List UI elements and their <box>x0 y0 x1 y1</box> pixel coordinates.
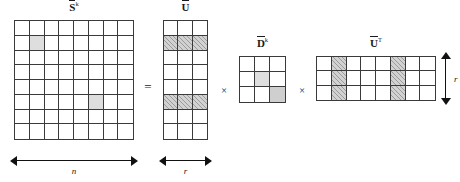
matrix-cell <box>104 124 119 139</box>
dimension-label-n: n <box>10 166 138 176</box>
matrix-cell <box>89 80 104 95</box>
matrix-cell <box>59 110 74 125</box>
matrix-cell <box>178 36 192 51</box>
matrix-cell <box>104 95 119 110</box>
matrix-s: Sk <box>14 2 134 152</box>
matrix-cell <box>332 86 347 100</box>
matrix-cell <box>89 95 104 110</box>
matrix-u-label: U <box>163 2 208 13</box>
matrix-cell <box>164 95 178 110</box>
matrix-ut-label-sup: T <box>378 36 382 43</box>
matrix-cell <box>332 71 347 85</box>
matrix-cell <box>45 95 60 110</box>
matrix-cell <box>164 80 178 95</box>
operator-equals: = <box>141 80 155 93</box>
matrix-cell <box>317 71 332 85</box>
matrix-ut-label: UT <box>316 38 436 49</box>
matrix-cell <box>376 57 391 71</box>
matrix-cell <box>361 86 376 100</box>
dimension-arrow-n: n <box>10 155 138 167</box>
matrix-cell <box>193 110 207 125</box>
matrix-cell <box>420 57 435 71</box>
matrix-cell <box>118 95 133 110</box>
matrix-cell <box>74 80 89 95</box>
matrix-cell <box>178 95 192 110</box>
matrix-d-label-base: D <box>257 37 265 49</box>
matrix-cell <box>30 80 45 95</box>
matrix-cell <box>193 124 207 139</box>
matrix-cell <box>406 57 421 71</box>
matrix-cell <box>164 21 178 36</box>
matrix-cell <box>332 57 347 71</box>
matrix-ut: UT <box>316 38 436 118</box>
matrix-cell <box>406 86 421 100</box>
arrow-head-right-icon <box>131 156 138 166</box>
matrix-cell <box>178 110 192 125</box>
matrix-cell <box>15 51 30 66</box>
matrix-cell <box>240 57 255 72</box>
arrow-shaft <box>445 57 446 100</box>
matrix-cell <box>255 72 270 87</box>
matrix-cell <box>59 36 74 51</box>
matrix-cell <box>30 65 45 80</box>
matrix-cell <box>45 65 60 80</box>
matrix-cell <box>59 51 74 66</box>
matrix-cell <box>74 51 89 66</box>
matrix-cell <box>45 21 60 36</box>
matrix-cell <box>74 36 89 51</box>
matrix-cell <box>317 57 332 71</box>
matrix-cell <box>45 110 60 125</box>
matrix-cell <box>89 51 104 66</box>
matrix-cell <box>178 80 192 95</box>
arrow-shaft <box>164 160 207 161</box>
matrix-cell <box>74 21 89 36</box>
matrix-cell <box>255 57 270 72</box>
matrix-cell <box>89 65 104 80</box>
dimension-arrow-r-u: r <box>159 155 212 167</box>
matrix-cell <box>104 80 119 95</box>
dimension-label-r-u: r <box>159 166 212 176</box>
matrix-cell <box>30 36 45 51</box>
matrix-ut-grid <box>316 56 436 101</box>
matrix-s-label-sup: k <box>75 0 78 7</box>
matrix-cell <box>178 51 192 66</box>
matrix-cell <box>118 21 133 36</box>
matrix-cell <box>74 124 89 139</box>
matrix-cell <box>15 110 30 125</box>
matrix-cell <box>347 57 362 71</box>
matrix-cell <box>270 72 285 87</box>
matrix-cell <box>118 124 133 139</box>
dimension-label-r-ut: r <box>454 74 458 84</box>
matrix-cell <box>193 95 207 110</box>
matrix-cell <box>193 21 207 36</box>
matrix-d-label: Dk <box>239 38 286 49</box>
matrix-cell <box>89 124 104 139</box>
matrix-cell <box>347 71 362 85</box>
matrix-cell <box>45 124 60 139</box>
matrix-cell <box>391 57 406 71</box>
matrix-s-label-base: S <box>69 1 75 13</box>
matrix-cell <box>45 51 60 66</box>
matrix-cell <box>30 51 45 66</box>
matrix-cell <box>15 95 30 110</box>
matrix-cell <box>104 110 119 125</box>
matrix-cell <box>15 65 30 80</box>
matrix-factorization-figure: Sk n = U r × Dk × UT <box>0 0 460 182</box>
matrix-cell <box>59 21 74 36</box>
matrix-cell <box>255 87 270 102</box>
dimension-arrow-r-ut: r <box>440 52 452 105</box>
matrix-cell <box>104 65 119 80</box>
matrix-u-grid <box>163 20 208 140</box>
matrix-cell <box>164 124 178 139</box>
matrix-cell <box>59 65 74 80</box>
matrix-cell <box>59 95 74 110</box>
matrix-d-grid <box>239 56 286 103</box>
matrix-s-grid <box>14 20 134 140</box>
matrix-d: Dk <box>239 38 286 118</box>
matrix-cell <box>178 65 192 80</box>
matrix-cell <box>420 71 435 85</box>
matrix-cell <box>240 87 255 102</box>
matrix-cell <box>391 71 406 85</box>
matrix-cell <box>30 21 45 36</box>
matrix-cell <box>361 71 376 85</box>
